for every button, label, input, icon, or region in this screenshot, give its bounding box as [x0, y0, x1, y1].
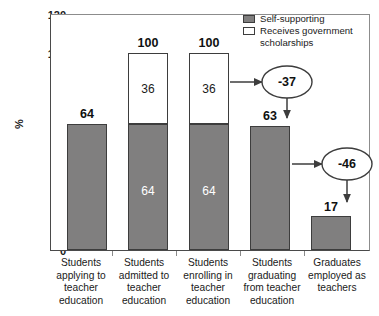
bar-chart: % 120 100 80 60 40 20 0 64 64 36 100 64 …: [0, 0, 379, 316]
self-supporting-swatch-icon: [243, 15, 255, 23]
bar-segment-self-supporting: [311, 216, 351, 250]
bar-total-label: 64: [57, 108, 117, 121]
x-axis-label-graduates-employed: Graduates employed as teachers: [304, 257, 370, 295]
bar-segment-value-scholarship: 36: [128, 83, 168, 95]
x-axis-label-students-graduating: Students graduating from teacher educati…: [239, 257, 305, 307]
plot-area: 64 64 36 100 64 36 100 63 17: [50, 14, 370, 251]
x-tick-mark-3: [240, 251, 241, 256]
bar-group-students-admitted[interactable]: 64 36 100: [128, 53, 168, 251]
annotation-value-drop1: -37: [262, 76, 312, 89]
bar-segment-value-scholarship: 36: [189, 83, 229, 95]
x-axis-label-students-admitted: Students admitted to teacher education: [112, 257, 176, 307]
x-tick-mark-1: [112, 251, 113, 256]
bar-total-label: 100: [118, 37, 178, 50]
legend: Self-supporting Receives government scho…: [243, 13, 369, 49]
bar-segment-value-self: 64: [189, 185, 229, 197]
legend-label: Self-supporting: [260, 13, 369, 24]
x-axis-label-students-applying: Students applying to teacher education: [50, 257, 112, 307]
bar-group-students-enrolling[interactable]: 64 36 100: [189, 53, 229, 251]
x-tick-mark-2: [176, 251, 177, 256]
x-tick-mark-4: [304, 251, 305, 256]
bar-segment-self-supporting: [250, 126, 290, 250]
x-axis-label-students-enrolling: Students enrolling in teacher education: [176, 257, 240, 307]
annotation-value-drop2: -46: [322, 158, 372, 171]
legend-item-scholarship: Receives government scholarships: [243, 25, 369, 48]
bar-total-label: 100: [179, 37, 239, 50]
legend-item-self-supporting: Self-supporting: [243, 13, 369, 24]
bar-group-students-applying[interactable]: 64: [67, 124, 107, 250]
scholarship-swatch-icon: [243, 27, 255, 35]
bar-group-graduates-employed[interactable]: 17: [311, 216, 351, 250]
bar-segment-self-supporting: [67, 124, 107, 250]
bar-segment-value-self: 64: [128, 185, 168, 197]
bar-total-label: 63: [240, 110, 300, 123]
bar-group-students-graduating[interactable]: 63: [250, 126, 290, 250]
legend-label: Receives government scholarships: [260, 25, 369, 48]
bar-total-label: 17: [301, 201, 361, 214]
